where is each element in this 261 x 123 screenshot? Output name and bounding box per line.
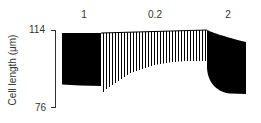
trace-phase-1hz	[62, 33, 101, 86]
trace-phase-2hz	[207, 30, 246, 94]
cell-length-chart: Cell length (μm) 114 76 1 0.2 2	[0, 0, 261, 123]
chart-plot	[0, 0, 261, 123]
y-axis	[51, 30, 56, 108]
trace-phase-0.2hz	[101, 30, 207, 92]
